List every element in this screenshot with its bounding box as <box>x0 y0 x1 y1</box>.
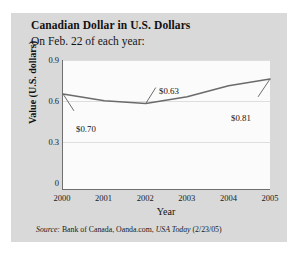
source-publication: USA Today <box>156 225 191 234</box>
leader-line-0.70 <box>63 94 74 111</box>
x-tick-label: 2003 <box>178 193 195 203</box>
x-tick-label: 2001 <box>95 193 112 203</box>
x-tick-label: 2005 <box>262 193 279 203</box>
annotation-0.63: $0.63 <box>159 86 179 96</box>
annotation-0.70: $0.70 <box>76 124 96 134</box>
leader-line-0.81 <box>258 79 270 97</box>
x-axis-label: Year <box>62 206 270 217</box>
y-tick-label: 0.6 <box>48 96 59 106</box>
x-axis-tick-labels: 2000 2001 2002 2003 2004 2005 <box>62 193 270 205</box>
y-tick-label: 0.3 <box>48 137 59 147</box>
leader-line-0.63 <box>146 88 156 104</box>
source-note: Source: Bank of Canada, Oanda.com, USA T… <box>36 225 222 234</box>
annotation-0.81: $0.81 <box>231 113 251 123</box>
y-tick-label: 0 <box>55 178 59 188</box>
x-tick-label: 2000 <box>54 193 71 203</box>
chart-title: Canadian Dollar in U.S. Dollars <box>31 19 190 31</box>
chart-screenshot: Canadian Dollar in U.S. Dollars On Feb. … <box>0 0 299 257</box>
x-tick-label: 2004 <box>220 193 237 203</box>
x-tick-label: 2002 <box>137 193 154 203</box>
chart-card: Canadian Dollar in U.S. Dollars On Feb. … <box>11 13 287 242</box>
source-prefix: Source: <box>36 225 60 234</box>
y-axis-tick-labels: 0.9 0.6 0.3 0 <box>35 60 59 190</box>
source-date: (2/23/05) <box>191 225 222 234</box>
source-text: Bank of Canada, Oanda.com, <box>60 225 156 234</box>
y-tick-label: 0.9 <box>48 55 59 65</box>
chart-subtitle: On Feb. 22 of each year: <box>31 35 145 47</box>
